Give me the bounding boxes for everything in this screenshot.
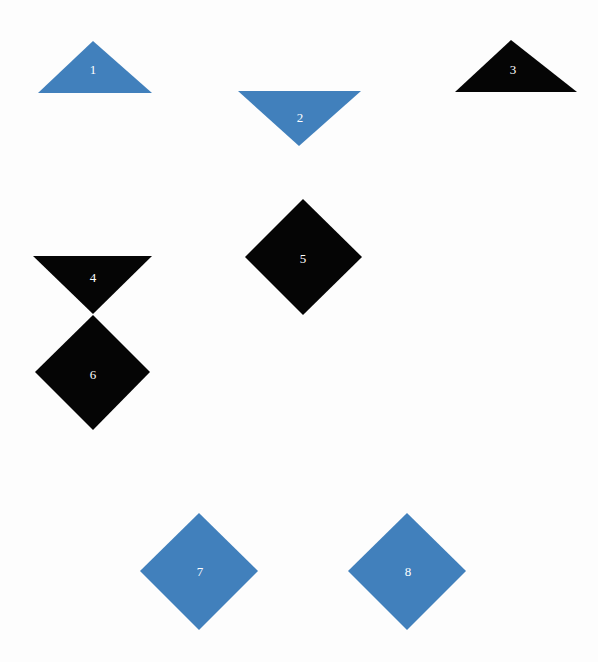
shape-8[interactable] xyxy=(348,513,466,630)
shape-canvas: 12345678 xyxy=(0,0,598,662)
shape-3[interactable] xyxy=(455,40,577,92)
shape-5[interactable] xyxy=(245,199,362,315)
shape-1[interactable] xyxy=(38,41,152,93)
shape-7[interactable] xyxy=(140,513,258,630)
shape-4[interactable] xyxy=(33,256,152,314)
shape-layer xyxy=(0,0,598,662)
shape-6[interactable] xyxy=(35,315,150,430)
shape-2[interactable] xyxy=(238,91,361,146)
